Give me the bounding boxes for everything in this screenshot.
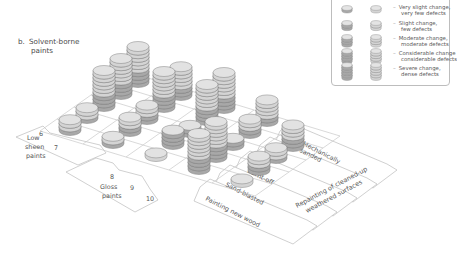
- coin-stack: [93, 66, 115, 112]
- legend-line-1: Severe change,: [399, 65, 441, 71]
- legend-line-2: few defects: [393, 26, 437, 32]
- diagram-title: b.Solvent-borne paints: [18, 37, 79, 55]
- legend-line-1: Moderate change,: [399, 35, 448, 41]
- row-number: 7: [54, 144, 58, 152]
- legend-line-2: dense defects: [393, 71, 441, 77]
- row-number: 8: [110, 173, 114, 181]
- svg-text:sheen: sheen: [25, 143, 44, 151]
- row-number: 10: [146, 195, 154, 203]
- legend-line-1: Very slight change,: [399, 4, 451, 10]
- row-number: 9: [130, 184, 134, 192]
- row-group-label: Gloss: [100, 183, 118, 191]
- legend-line-2: moderate defects: [393, 41, 449, 47]
- coin-stack: [188, 129, 210, 175]
- svg-text:paints: paints: [26, 152, 46, 160]
- coin-stack: [248, 151, 270, 175]
- legend-line-2: very few defects: [393, 10, 450, 16]
- legend-line-1: Considerable change: [399, 50, 456, 56]
- legend-item: –Moderate change,moderate defects: [332, 35, 449, 51]
- legend-box: –Very slight change,very few defects –Sl…: [331, 0, 450, 86]
- coin-stack: [162, 125, 184, 149]
- coin-stack: [145, 148, 167, 162]
- title-line-1: Solvent-borne: [29, 37, 79, 46]
- coin-stack: [59, 115, 81, 136]
- legend-item: –Considerable changeconsiderable defects: [332, 50, 449, 66]
- legend-line-1: Slight change,: [399, 20, 438, 26]
- legend-line-2: considerable defects: [393, 56, 457, 62]
- title-letter: b.: [18, 37, 29, 46]
- svg-text:paints: paints: [102, 192, 122, 200]
- legend-item: –Slight change,few defects: [332, 20, 449, 36]
- legend-item: –Very slight change,very few defects: [332, 4, 449, 20]
- title-line-2: paints: [18, 46, 79, 55]
- coin-stack: [102, 131, 124, 148]
- coin-stack: [239, 114, 261, 138]
- row-group-label: Low: [27, 134, 40, 142]
- coin-stack: [231, 174, 253, 188]
- coin-stack: [119, 112, 141, 136]
- legend-item: –Severe change,dense defects: [332, 65, 449, 81]
